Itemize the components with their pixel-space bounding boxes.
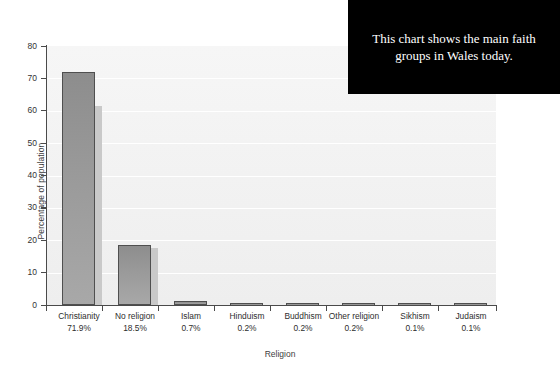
- gridline-20: [47, 240, 496, 241]
- caption-box: This chart shows the main faith groups i…: [348, 0, 560, 94]
- y-tick-80: [41, 46, 46, 47]
- category-name: Judaism: [434, 311, 508, 323]
- y-tick-label-60: 60: [11, 105, 37, 115]
- bar-christianity[interactable]: [62, 72, 95, 305]
- gridline-40: [47, 176, 496, 177]
- y-tick-50: [41, 143, 46, 144]
- caption-text: This chart shows the main faith groups i…: [368, 30, 540, 64]
- y-tick-label-30: 30: [11, 202, 37, 212]
- bar-no-religion[interactable]: [118, 245, 151, 305]
- y-tick-60: [41, 110, 46, 111]
- y-tick-10: [41, 272, 46, 273]
- y-axis-title: Percentage of population: [36, 86, 46, 296]
- y-tick-label-80: 80: [11, 41, 37, 51]
- y-tick-30: [41, 207, 46, 208]
- y-tick-70: [41, 78, 46, 79]
- y-tick-label-20: 20: [11, 235, 37, 245]
- y-tick-label-0: 0: [11, 300, 37, 310]
- category-label-judaism: Judaism 0.1%: [434, 311, 508, 334]
- bar-shadow-christianity: [95, 106, 102, 305]
- gridline-10: [47, 273, 496, 274]
- y-tick-label-50: 50: [11, 138, 37, 148]
- bar-chart-figure: Percentage of population 80 70 60 50 40 …: [0, 0, 560, 372]
- category-value: 0.2%: [326, 323, 382, 335]
- gridline-50: [47, 143, 496, 144]
- category-label-other-religion: Other religion 0.2%: [326, 311, 382, 334]
- y-tick-20: [41, 240, 46, 241]
- y-tick-label-10: 10: [11, 267, 37, 277]
- bar-shadow-no-religion: [151, 248, 158, 305]
- y-tick-label-70: 70: [11, 73, 37, 83]
- x-axis-title: Religion: [0, 349, 560, 359]
- category-name: Other religion: [326, 311, 382, 323]
- y-axis-line: [46, 45, 47, 306]
- y-tick-label-40: 40: [11, 170, 37, 180]
- y-tick-40: [41, 175, 46, 176]
- gridline-60: [47, 111, 496, 112]
- gridline-30: [47, 208, 496, 209]
- category-value: 0.1%: [434, 323, 508, 335]
- x-axis-line: [46, 305, 497, 306]
